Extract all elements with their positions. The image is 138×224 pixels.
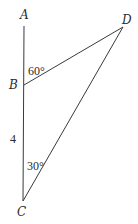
triangle-diagram: A B C D 60° 4 30° — [0, 0, 138, 224]
segment-ac — [23, 26, 24, 201]
point-label-c: C — [17, 205, 26, 219]
point-label-d: D — [121, 13, 132, 27]
point-label-a: A — [19, 8, 29, 22]
segment-cd — [23, 27, 123, 201]
point-label-b: B — [8, 78, 18, 92]
side-length-label: 4 — [10, 132, 16, 146]
angle-label-60: 60° — [28, 64, 45, 78]
angle-label-30: 30° — [27, 159, 44, 173]
